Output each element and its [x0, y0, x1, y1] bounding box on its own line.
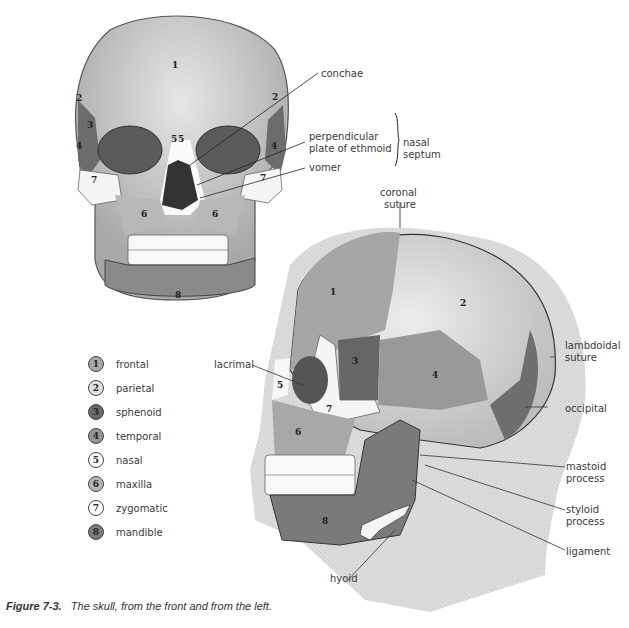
side-num-frontal: 1	[330, 287, 336, 297]
legend-item-sphenoid: 3 sphenoid	[88, 403, 162, 421]
legend-swatch: 5	[88, 452, 104, 468]
legend-swatch: 8	[88, 524, 104, 540]
side-num-sphenoid: 3	[352, 356, 358, 366]
front-num-frontal: 1	[172, 60, 178, 70]
legend-item-parietal: 2 parietal	[88, 379, 154, 397]
figure-caption: Figure 7-3. The skull, from the front an…	[6, 600, 272, 612]
label-occipital: occipital	[565, 403, 607, 414]
caption-text: The skull, from the front and from the l…	[71, 600, 272, 612]
label-mastoid-process-line1: mastoid	[566, 461, 606, 472]
front-skull	[76, 16, 289, 300]
label-perpendicular-plate-line2: plate of ethmoid	[309, 143, 392, 154]
label-lacrimal: lacrimal	[214, 359, 254, 370]
legend-label: parietal	[116, 383, 154, 394]
legend-swatch: 4	[88, 428, 104, 444]
legend-label: zygomatic	[116, 503, 168, 514]
front-num-nasal-left: 5	[171, 134, 177, 144]
label-coronal-suture-line2: suture	[384, 199, 416, 210]
side-num-maxilla: 6	[295, 427, 301, 437]
front-num-sphenoid-left: 3	[87, 120, 93, 130]
label-nasal-septum-line1: nasal	[403, 137, 430, 148]
side-num-zygomatic: 7	[326, 404, 332, 414]
label-ligament: ligament	[566, 546, 610, 557]
front-num-mandible: 8	[175, 290, 181, 300]
legend-swatch: 1	[88, 356, 104, 372]
front-num-maxilla-right: 6	[212, 209, 218, 219]
front-num-maxilla-left: 6	[141, 209, 147, 219]
label-hyoid: hyoid	[330, 573, 358, 584]
front-num-temporal-right: 4	[271, 141, 277, 151]
label-coronal-suture-line1: coronal	[380, 187, 417, 198]
legend-swatch: 7	[88, 500, 104, 516]
label-styloid-process-line1: styloid	[566, 504, 599, 515]
front-num-nasal-right: 5	[178, 134, 184, 144]
side-num-nasal: 5	[277, 380, 283, 390]
front-num-zygomatic-left: 7	[91, 175, 97, 185]
legend-item-maxilla: 6 maxilla	[88, 475, 152, 493]
label-perpendicular-plate-line1: perpendicular	[309, 131, 378, 142]
legend-item-zygomatic: 7 zygomatic	[88, 499, 168, 517]
front-num-parietal-left: 2	[76, 93, 82, 103]
legend-swatch: 6	[88, 476, 104, 492]
label-lambdoidal-suture-line1: lambdoidal	[565, 340, 621, 351]
label-conchae: conchae	[321, 68, 363, 79]
legend-label: nasal	[116, 455, 143, 466]
legend-label: temporal	[116, 431, 161, 442]
side-num-mandible: 8	[322, 516, 328, 526]
legend-item-nasal: 5 nasal	[88, 451, 143, 469]
legend-label: mandible	[116, 527, 163, 538]
side-num-parietal: 2	[460, 298, 466, 308]
label-nasal-septum-line2: septum	[403, 149, 441, 160]
label-styloid-process-line2: process	[566, 516, 604, 527]
front-num-temporal-left: 4	[76, 141, 82, 151]
label-mastoid-process-line2: process	[566, 473, 604, 484]
front-num-zygomatic-right: 7	[260, 173, 266, 183]
legend-item-frontal: 1 frontal	[88, 355, 149, 373]
legend-swatch: 2	[88, 380, 104, 396]
caption-label: Figure 7-3.	[6, 600, 62, 612]
legend-item-temporal: 4 temporal	[88, 427, 161, 445]
side-num-temporal: 4	[432, 370, 438, 380]
front-num-parietal-right: 2	[272, 92, 278, 102]
label-lambdoidal-suture-line2: suture	[565, 352, 597, 363]
legend-label: maxilla	[116, 479, 152, 490]
legend-swatch: 3	[88, 404, 104, 420]
legend-label: frontal	[116, 359, 149, 370]
label-vomer: vomer	[309, 162, 341, 173]
side-skull	[250, 228, 586, 612]
legend-item-mandible: 8 mandible	[88, 523, 163, 541]
legend-label: sphenoid	[116, 407, 162, 418]
